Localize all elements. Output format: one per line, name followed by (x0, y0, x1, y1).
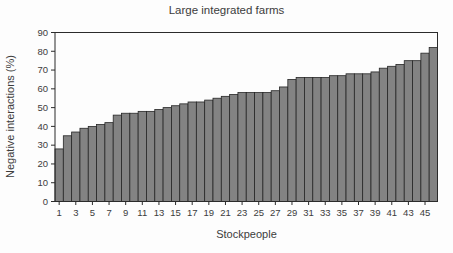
bar (429, 48, 437, 202)
bar (255, 93, 263, 202)
bar (321, 78, 329, 202)
bar (271, 91, 279, 202)
bar (280, 87, 288, 202)
bar (296, 78, 304, 202)
bar (80, 128, 88, 201)
y-tick-label: 80 (37, 46, 48, 57)
bar (105, 123, 113, 202)
bar (213, 98, 221, 201)
y-tick-label: 10 (37, 177, 48, 188)
x-tick-label: 31 (303, 207, 314, 218)
x-tick-label: 25 (253, 207, 264, 218)
x-tick-label: 33 (320, 207, 331, 218)
bar (363, 74, 371, 202)
bar (396, 64, 404, 201)
x-tick-label: 19 (204, 207, 215, 218)
bar (146, 111, 154, 201)
x-tick-label: 41 (386, 207, 397, 218)
bar (196, 102, 204, 202)
bar (238, 93, 246, 202)
x-tick-label: 27 (270, 207, 281, 218)
bar (421, 53, 429, 201)
bar (72, 132, 80, 201)
bar (354, 74, 362, 202)
x-tick-label: 11 (137, 207, 147, 218)
bar (97, 125, 105, 202)
x-tick-label: 5 (90, 207, 95, 218)
x-tick-label: 39 (370, 207, 381, 218)
y-tick-label: 40 (37, 121, 48, 132)
bar (246, 93, 254, 202)
x-tick-label: 43 (403, 207, 414, 218)
bar (155, 109, 163, 201)
bar (221, 96, 229, 201)
y-tick-label: 30 (37, 139, 48, 150)
bar (138, 111, 146, 201)
x-axis-label: Stockpeople (55, 228, 438, 240)
bar (404, 61, 412, 202)
x-tick-label: 45 (420, 207, 431, 218)
y-tick-label: 60 (37, 83, 48, 94)
x-tick-label: 9 (123, 207, 128, 218)
bar (346, 74, 354, 202)
x-tick-label: 37 (353, 207, 364, 218)
bar (230, 94, 238, 201)
x-tick-label: 15 (170, 207, 181, 218)
bar (379, 68, 387, 201)
bar (188, 102, 196, 202)
x-tick-label: 17 (187, 207, 198, 218)
bar (130, 113, 138, 201)
y-tick-label: 90 (37, 27, 48, 38)
y-tick-label: 0 (43, 196, 48, 207)
bar (263, 93, 271, 202)
bar (388, 66, 396, 201)
y-tick-label: 50 (37, 102, 48, 113)
bar (88, 126, 96, 201)
x-tick-label: 29 (287, 207, 298, 218)
bar (171, 106, 179, 202)
x-tick-label: 21 (220, 207, 231, 218)
x-tick-label: 1 (57, 207, 62, 218)
y-tick-label: 20 (37, 158, 48, 169)
x-tick-label: 13 (154, 207, 165, 218)
x-tick-label: 35 (337, 207, 348, 218)
bar (313, 78, 321, 202)
bar (63, 136, 71, 202)
bar (163, 108, 171, 202)
bar (180, 104, 188, 202)
bar (205, 100, 213, 201)
x-tick-label: 7 (106, 207, 111, 218)
bar-chart-figure: Large integrated farms Negative interact… (0, 0, 453, 253)
bar (113, 115, 121, 201)
bar (338, 76, 346, 202)
bar (288, 79, 296, 201)
bar (329, 76, 337, 202)
bar (371, 72, 379, 202)
x-tick-label: 23 (237, 207, 248, 218)
y-tick-label: 70 (37, 64, 48, 75)
bar (304, 78, 312, 202)
bar (122, 113, 130, 201)
x-tick-label: 3 (73, 207, 78, 218)
bar (413, 61, 421, 202)
bar-chart-plot-area: 0102030405060708090135791113151719212325… (0, 0, 453, 253)
bar (55, 149, 63, 202)
